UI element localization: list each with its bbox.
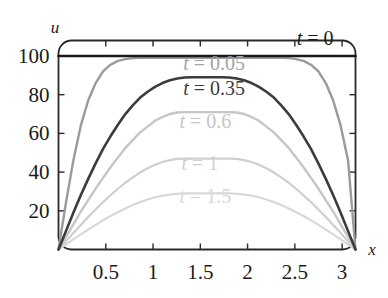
x-tick-label: 2.5 xyxy=(282,260,308,284)
curve-annotations: t = 0t = 0.05t = 0.35t = 0.6t = 1t = 1.5 xyxy=(180,27,334,207)
curve-label-t-1.5: t = 1.5 xyxy=(180,185,232,207)
x-tick-label: 1 xyxy=(148,260,159,284)
curve-label-text: t = 0.05 xyxy=(183,52,245,74)
x-tick-label: 2 xyxy=(242,260,253,284)
curve-label-text: t = 0.6 xyxy=(180,110,232,132)
x-tick-label: 3 xyxy=(337,260,348,284)
y-tick-label: 40 xyxy=(29,160,50,184)
y-tick-label: 80 xyxy=(29,83,50,107)
y-tick-label: 20 xyxy=(29,199,50,223)
curve-label-t-1: t = 1 xyxy=(181,152,218,174)
heat-equation-chart: 0.511.522.53 20406080100 t = 0t = 0.05t … xyxy=(0,0,388,298)
x-tick-labels: 0.511.522.53 xyxy=(93,260,348,284)
curve-label-text: t = 1 xyxy=(181,152,218,174)
curve-label-text: t = 0 xyxy=(297,27,334,49)
curve-label-t-0.05: t = 0.05 xyxy=(183,52,245,74)
y-tick-labels: 20406080100 xyxy=(18,44,50,223)
curve-label-t-0.6: t = 0.6 xyxy=(180,110,232,132)
y-axis-label: u xyxy=(51,18,60,37)
y-tick-label: 60 xyxy=(29,121,50,145)
curve-label-t-0.35: t = 0.35 xyxy=(183,77,245,99)
x-axis-label: x xyxy=(367,240,376,259)
curve-label-t-0: t = 0 xyxy=(297,27,334,49)
curve-t-0.6 xyxy=(59,112,356,249)
y-tick-label: 100 xyxy=(18,44,50,68)
x-tick-label: 0.5 xyxy=(93,260,119,284)
x-tick-label: 1.5 xyxy=(187,260,213,284)
curve-label-text: t = 1.5 xyxy=(180,185,232,207)
curve-label-text: t = 0.35 xyxy=(183,77,245,99)
